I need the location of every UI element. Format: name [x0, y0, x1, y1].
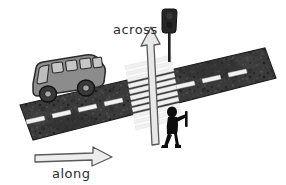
- along-label: along: [52, 166, 91, 181]
- along-arrow: [35, 147, 112, 166]
- illustration-canvas: across along: [0, 0, 286, 185]
- across-label: across: [113, 22, 158, 37]
- traffic-light-housing: [162, 9, 177, 33]
- traffic-light-pole: [168, 32, 171, 62]
- traffic-light: [162, 9, 177, 62]
